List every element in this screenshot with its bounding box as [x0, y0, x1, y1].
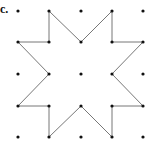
dot-grid [16, 9, 144, 138]
grid-dot [47, 72, 50, 75]
grid-dot [16, 104, 19, 107]
grid-dot [110, 72, 113, 75]
grid-dot [16, 40, 19, 43]
grid-dot [110, 104, 113, 107]
grid-dot [141, 9, 144, 12]
grid-dot [79, 104, 82, 107]
grid-dot [47, 104, 50, 107]
grid-dot [110, 9, 113, 12]
grid-dot [141, 135, 144, 138]
grid-dot [79, 135, 82, 138]
grid-dot [110, 135, 113, 138]
grid-dot [141, 72, 144, 75]
grid-dot [110, 40, 113, 43]
grid-dot [47, 135, 50, 138]
grid-dot [79, 40, 82, 43]
grid-dot [79, 9, 82, 12]
grid-dot [16, 135, 19, 138]
grid-dot [47, 9, 50, 12]
grid-dot [16, 9, 19, 12]
grid-dot [79, 72, 82, 75]
dot-grid-star-figure [0, 0, 152, 145]
grid-dot [141, 104, 144, 107]
grid-dot [16, 72, 19, 75]
grid-dot [47, 40, 50, 43]
grid-dot [141, 40, 144, 43]
